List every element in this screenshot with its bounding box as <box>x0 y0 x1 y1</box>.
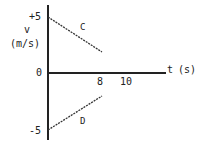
x-tick-8: 8 <box>97 76 103 87</box>
x-tick-10: 10 <box>120 76 132 87</box>
x-axis-unit: (s) <box>178 64 196 75</box>
x-axis-label: t <box>167 64 173 75</box>
y-tick-minus5: -5 <box>29 125 41 136</box>
velocity-time-graph: +5 0 -5 v (m/s) 8 10 t (s) C D <box>0 0 201 148</box>
line-d-label: D <box>80 116 85 126</box>
y-tick-zero: 0 <box>36 67 42 78</box>
y-axis-unit: (m/s) <box>10 38 40 49</box>
y-tick-plus5: +5 <box>29 11 41 22</box>
line-c-label: C <box>80 22 85 32</box>
y-axis-label: v <box>24 24 30 35</box>
line-c <box>48 17 102 52</box>
line-d <box>48 96 102 130</box>
